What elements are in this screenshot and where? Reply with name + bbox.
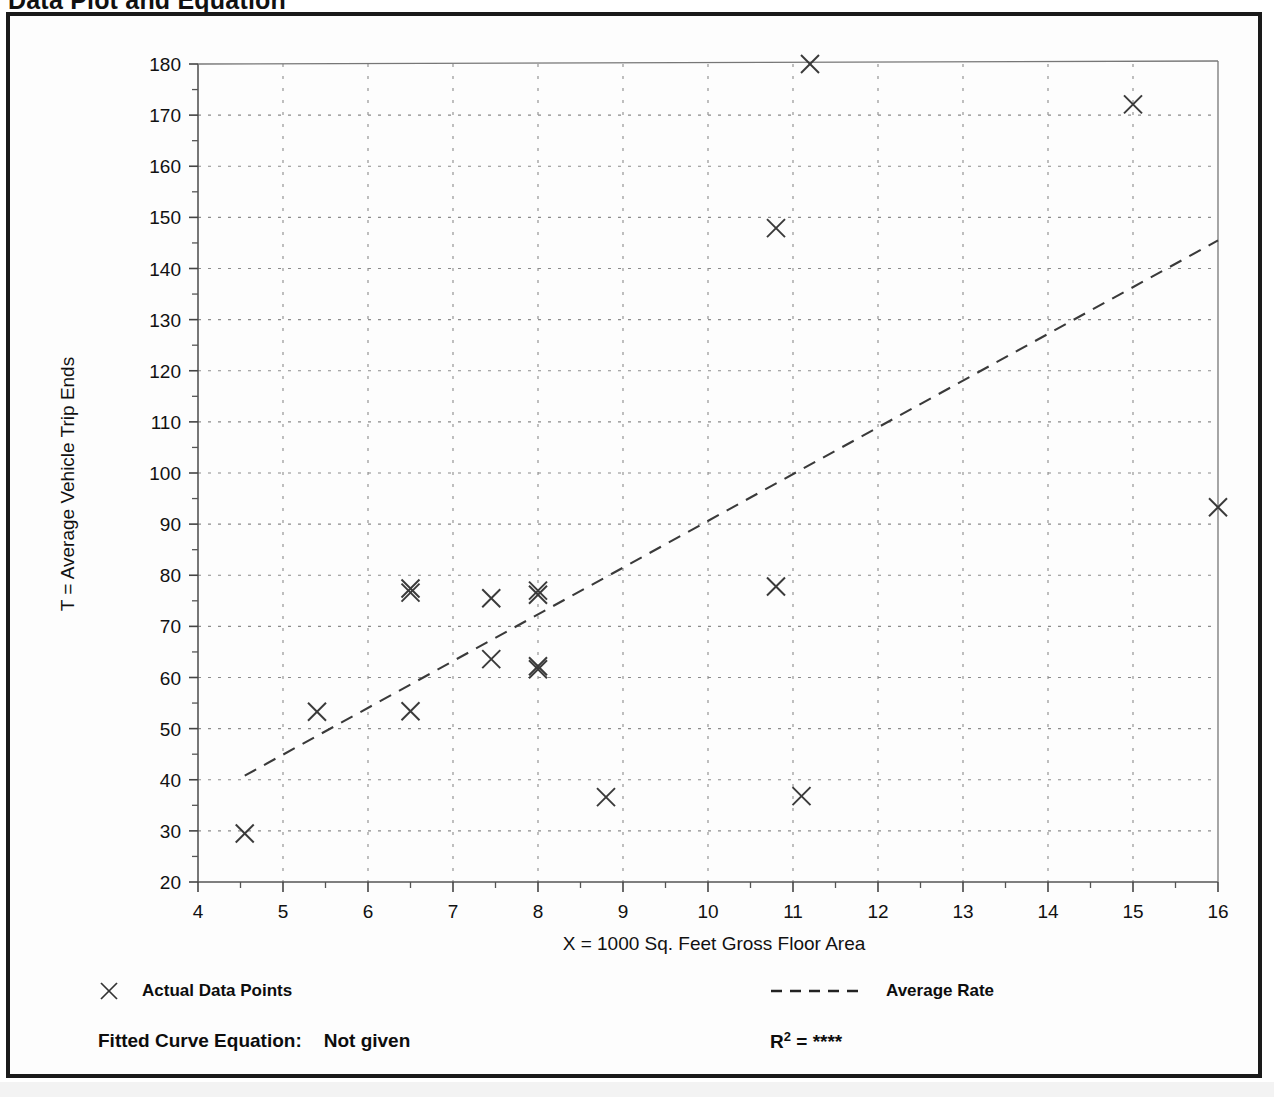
data-point — [801, 55, 819, 73]
legend-label-average-rate: Average Rate — [886, 981, 994, 1001]
x-tick-label: 10 — [697, 901, 718, 922]
fitted-curve-equation-label: Fitted Curve Equation: — [98, 1030, 302, 1052]
data-point — [482, 650, 500, 668]
data-point — [529, 586, 547, 604]
y-tick-label: 180 — [149, 54, 181, 75]
fitted-curve-equation: Fitted Curve Equation: Not given — [98, 1024, 410, 1058]
y-axis-ticks — [189, 64, 198, 882]
scan-edge-tint — [0, 1082, 1274, 1097]
x-tick-label: 6 — [363, 901, 374, 922]
data-point — [402, 580, 420, 598]
x-tick-label: 5 — [278, 901, 289, 922]
data-point — [402, 584, 420, 602]
x-tick-label: 16 — [1207, 901, 1228, 922]
x-axis-title: X = 1000 Sq. Feet Gross Floor Area — [563, 933, 866, 954]
x-axis-ticks — [198, 882, 1218, 892]
x-tick-label: 4 — [193, 901, 204, 922]
fitted-curve-equation-value: Not given — [324, 1030, 411, 1052]
y-tick-label: 70 — [160, 616, 181, 637]
x-tick-label: 13 — [952, 901, 973, 922]
average-rate-trendline — [245, 240, 1218, 775]
r-squared-exponent: 2 — [784, 1029, 791, 1044]
data-point — [529, 660, 547, 678]
data-point — [402, 702, 420, 720]
y-tick-label: 100 — [149, 463, 181, 484]
data-point-markers — [236, 55, 1227, 842]
data-point — [529, 657, 547, 675]
data-point — [308, 703, 326, 721]
chart-footer: Fitted Curve Equation: Not given R2 = **… — [10, 1024, 1266, 1058]
chart-figure: 2030405060708090100110120130140150160170… — [10, 16, 1266, 1082]
data-point — [1124, 95, 1142, 113]
data-point — [482, 589, 500, 607]
dashed-line-icon — [770, 986, 866, 996]
y-tick-label: 150 — [149, 207, 181, 228]
data-point — [236, 824, 254, 842]
x-axis-tick-labels: 45678910111213141516 — [193, 901, 1229, 922]
r-squared-equals: = — [796, 1031, 807, 1052]
y-tick-label: 60 — [160, 668, 181, 689]
legend-item-actual-data-points: Actual Data Points — [98, 974, 292, 1008]
x-tick-label: 11 — [783, 901, 803, 922]
r-squared-label: R — [770, 1031, 784, 1052]
data-point — [767, 219, 785, 237]
x-tick-label: 14 — [1037, 901, 1059, 922]
x-marker-icon — [98, 980, 120, 1002]
y-tick-label: 160 — [149, 156, 181, 177]
y-tick-label: 50 — [160, 719, 181, 740]
x-tick-label: 8 — [533, 901, 544, 922]
y-tick-label: 170 — [149, 105, 181, 126]
x-tick-label: 12 — [867, 901, 888, 922]
data-point — [793, 787, 811, 805]
r-squared-value: **** — [813, 1031, 843, 1052]
r-squared-expression: R2 = **** — [770, 1029, 842, 1053]
y-tick-label: 140 — [149, 259, 181, 280]
data-point — [767, 577, 785, 595]
legend-item-average-rate: Average Rate — [770, 974, 994, 1008]
r-squared-annotation: R2 = **** — [770, 1024, 842, 1058]
legend: Actual Data Points Average Rate — [10, 974, 1266, 1008]
y-tick-label: 90 — [160, 514, 181, 535]
legend-label-actual-data-points: Actual Data Points — [142, 981, 292, 1001]
y-axis-tick-labels: 2030405060708090100110120130140150160170… — [149, 54, 181, 893]
data-point — [597, 788, 615, 806]
y-tick-label: 130 — [149, 310, 181, 331]
y-tick-label: 120 — [149, 361, 181, 382]
data-point — [529, 582, 547, 600]
chart-panel: 2030405060708090100110120130140150160170… — [6, 12, 1262, 1078]
y-tick-label: 20 — [160, 872, 181, 893]
y-tick-label: 30 — [160, 821, 181, 842]
x-tick-label: 15 — [1122, 901, 1143, 922]
y-tick-label: 40 — [160, 770, 181, 791]
scatter-plot-svg: 2030405060708090100110120130140150160170… — [10, 16, 1266, 966]
y-tick-label: 80 — [160, 565, 181, 586]
x-tick-label: 9 — [618, 901, 629, 922]
y-axis-title: T = Average Vehicle Trip Ends — [57, 357, 78, 611]
y-tick-label: 110 — [151, 412, 181, 433]
x-tick-label: 7 — [448, 901, 459, 922]
